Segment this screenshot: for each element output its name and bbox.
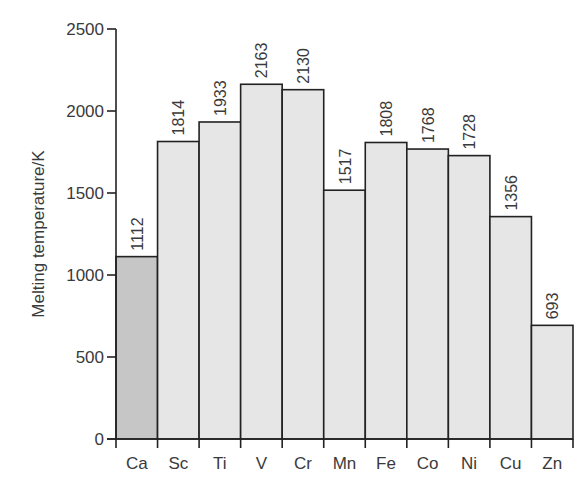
- value-label-co: 1768: [420, 107, 437, 143]
- x-category-label-zn: Zn: [542, 454, 562, 473]
- value-label-zn: 693: [544, 293, 561, 320]
- bar-sc: [158, 142, 200, 439]
- y-axis: 05001000150020002500: [66, 20, 116, 449]
- bar-ca: [116, 257, 158, 439]
- y-tick-label: 500: [76, 348, 104, 367]
- bar-mn: [324, 190, 366, 439]
- value-label-ti: 1933: [212, 80, 229, 116]
- value-label-sc: 1814: [170, 100, 187, 136]
- bar-fe: [365, 142, 407, 439]
- y-tick-label: 0: [95, 430, 104, 449]
- x-category-label-ni: Ni: [461, 454, 477, 473]
- y-tick-label: 1000: [66, 266, 104, 285]
- value-label-ca: 1112: [129, 217, 146, 250]
- value-label-cu: 1356: [503, 175, 520, 211]
- x-category-label-mn: Mn: [333, 454, 357, 473]
- bar-cr: [282, 90, 324, 439]
- y-tick-label: 2000: [66, 102, 104, 121]
- x-category-label-cu: Cu: [500, 454, 522, 473]
- melting-temperature-bar-chart: Melting temperature/K 111218141933216321…: [0, 0, 588, 495]
- y-axis-label: Melting temperature/K: [29, 150, 48, 318]
- x-category-label-cr: Cr: [294, 454, 312, 473]
- x-category-label-ca: Ca: [126, 454, 148, 473]
- y-tick-label: 1500: [66, 184, 104, 203]
- value-label-fe: 1808: [378, 101, 395, 137]
- x-category-label-fe: Fe: [376, 454, 396, 473]
- bar-zn: [531, 325, 573, 439]
- y-tick-label: 2500: [66, 20, 104, 39]
- bar-cu: [490, 217, 532, 439]
- bar-v: [241, 84, 283, 439]
- x-category-label-ti: Ti: [213, 454, 227, 473]
- x-category-label-v: V: [256, 454, 268, 473]
- value-label-cr: 2130: [295, 48, 312, 84]
- bar-ni: [448, 156, 490, 439]
- bar-ti: [199, 122, 241, 439]
- value-label-v: 2163: [253, 43, 270, 79]
- bar-co: [407, 149, 449, 439]
- value-label-mn: 1517: [337, 149, 354, 185]
- bars-group: 1112181419332163213015171808176817281356…: [116, 43, 573, 439]
- x-category-label-sc: Sc: [168, 454, 188, 473]
- x-axis: CaScTiVCrMnFeCoNiCuZn: [107, 439, 573, 473]
- x-category-label-co: Co: [417, 454, 439, 473]
- value-label-ni: 1728: [461, 114, 478, 150]
